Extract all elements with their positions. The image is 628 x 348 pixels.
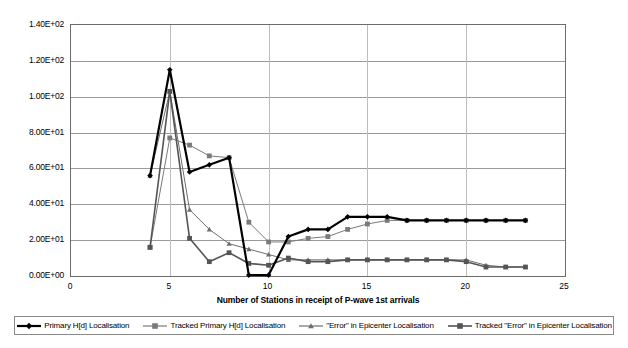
y-tick-label-20: 2.00E+01 — [2, 234, 64, 244]
x-tick-label-20: 20 — [453, 281, 477, 291]
x-tick-label-15: 15 — [354, 281, 378, 291]
y-tick-label-140: 1.40E+02 — [2, 19, 64, 29]
x-tick-label-0: 0 — [58, 281, 82, 291]
legend-item-2[interactable]: "Error" in Epicenter Localisation — [298, 321, 433, 331]
series-3 — [148, 89, 528, 270]
y-tick-label-60: 6.00E+01 — [2, 162, 64, 172]
legend-item-3[interactable]: Tracked "Error" in Epicenter Localisatio… — [447, 321, 612, 331]
legend-item-label: Primary H[d] Localisation — [44, 321, 129, 330]
x-tick-label-10: 10 — [256, 281, 280, 291]
x-axis-title: Number of Stations in receipt of P-wave … — [70, 295, 566, 305]
series-2 — [147, 89, 528, 269]
chart-root: H[d] values / "Error" in Epicenter value… — [0, 0, 628, 348]
legend-key-triangle-icon — [298, 321, 324, 331]
y-tick-label-80: 8.00E+01 — [2, 127, 64, 137]
legend-item-label: Tracked "Error" in Epicenter Localisatio… — [475, 321, 612, 330]
x-tick-label-5: 5 — [157, 281, 181, 291]
y-tick-label-100: 1.00E+02 — [2, 91, 64, 101]
y-tick-label-120: 1.20E+02 — [2, 55, 64, 65]
y-tick-label-40: 4.00E+01 — [2, 198, 64, 208]
legend-key-diamond-icon — [16, 321, 42, 331]
legend-item-0[interactable]: Primary H[d] Localisation — [16, 321, 129, 331]
series-plot — [71, 25, 565, 276]
y-tick-label-0: 0.00E+00 — [2, 270, 64, 280]
legend-item-1[interactable]: Tracked Primary H[d] Localisation — [142, 321, 285, 331]
legend-item-label: "Error" in Epicenter Localisation — [326, 321, 433, 330]
legend-key-square-icon — [447, 321, 473, 331]
series-0 — [147, 67, 528, 278]
series-1 — [148, 136, 528, 250]
x-tick-label-25: 25 — [552, 281, 576, 291]
legend-item-label: Tracked Primary H[d] Localisation — [170, 321, 285, 330]
legend-key-square-icon — [142, 321, 168, 331]
plot-area — [70, 24, 566, 277]
chart-legend: Primary H[d] LocalisationTracked Primary… — [14, 316, 614, 335]
